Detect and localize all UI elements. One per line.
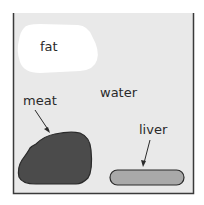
fat-blob — [18, 24, 98, 73]
liver-label: liver — [139, 122, 168, 137]
meat-label: meat — [23, 93, 57, 108]
fat-label: fat — [40, 39, 58, 54]
liver-shape — [110, 170, 184, 185]
water-label: water — [100, 85, 138, 100]
diagram-canvas: fat water meat liver — [0, 0, 204, 205]
